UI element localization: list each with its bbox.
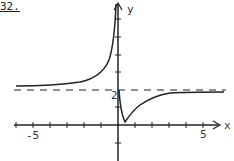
- y-tick-label-2: 2: [111, 89, 118, 102]
- x-tick-label-5: 5: [200, 128, 207, 141]
- left-branch: [16, 4, 116, 86]
- curve: [16, 4, 224, 122]
- x-axis-label: x: [224, 119, 231, 132]
- x-tick-label-neg5: -5: [26, 129, 39, 142]
- chart: -5 5 x y 2: [0, 0, 234, 161]
- right-branch: [119, 90, 224, 122]
- x-axis: -5 5 x: [14, 119, 231, 142]
- y-axis-label: y: [127, 3, 134, 16]
